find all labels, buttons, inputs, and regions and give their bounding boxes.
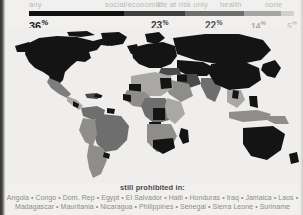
region-egypt <box>160 78 172 89</box>
legend-segment-social-economic <box>124 11 185 16</box>
legend-segment-none <box>281 11 294 16</box>
scan-edge-right <box>300 0 303 215</box>
legend-segment-health <box>244 11 281 16</box>
legend-gradient-bar <box>29 11 294 16</box>
legend-label-row: any social/economic life at risk only he… <box>5 0 300 10</box>
legend: any social/economic life at risk only he… <box>5 0 300 28</box>
legend-segment-any <box>29 11 124 16</box>
legend-label-none: none <box>265 0 283 9</box>
legend-label-social-economic: social/economic <box>105 0 161 9</box>
region-congo <box>153 108 165 120</box>
legend-segment-life-at-risk <box>185 11 243 16</box>
legend-label-life-at-risk: life at risk only <box>157 0 208 9</box>
region-guyana-suriname <box>107 108 115 114</box>
footer: still prohibited in: Angola • Congo • Do… <box>5 181 300 215</box>
legend-label-health: health <box>220 0 242 9</box>
legend-label-any: any <box>29 0 42 9</box>
world-map-svg <box>5 28 300 183</box>
footer-title: still prohibited in: <box>5 183 300 192</box>
legend-value-row: 36% 23% 22% 14% 5% <box>5 17 300 28</box>
world-map <box>5 28 300 183</box>
region-iraq <box>177 75 187 82</box>
footer-country-line-1: Angola • Congo • Dom. Rep • Egypt • El S… <box>5 193 300 202</box>
region-laos <box>232 90 239 99</box>
infographic-page: any social/economic life at risk only he… <box>0 0 303 215</box>
footer-country-line-2: Madagascar • Mauritania • Nicaragua • Ph… <box>5 202 300 211</box>
